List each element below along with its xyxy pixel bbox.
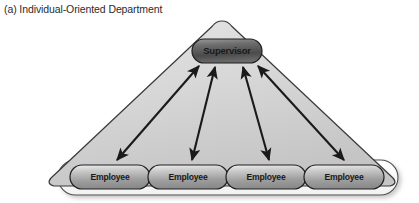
node-employee-2-label: Employee — [169, 172, 208, 182]
node-supervisor-label: Supervisor — [203, 45, 251, 56]
node-employee-3-label: Employee — [247, 172, 286, 182]
node-employee-3[interactable]: Employee — [226, 165, 306, 189]
organization-diagram: Supervisor Employee Employee Employee Em… — [0, 0, 419, 203]
figure-root: (a) Individual-Oriented Department — [0, 0, 419, 203]
node-employee-1[interactable]: Employee — [70, 165, 150, 189]
node-supervisor[interactable]: Supervisor — [192, 39, 262, 63]
node-employee-1-label: Employee — [91, 172, 130, 182]
node-employee-2[interactable]: Employee — [148, 165, 228, 189]
node-employee-4[interactable]: Employee — [304, 165, 384, 189]
node-employee-4-label: Employee — [325, 172, 364, 182]
